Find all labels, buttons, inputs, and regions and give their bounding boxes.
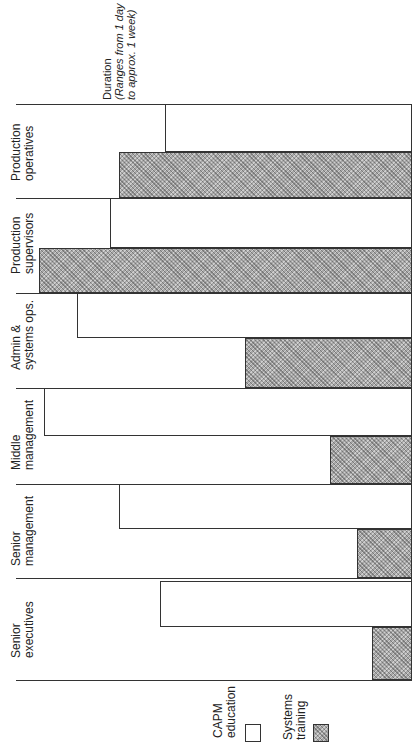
bar-capm-admin-systems-ops [77, 293, 411, 338]
bar-systems-production-supervisors [39, 248, 411, 293]
legend-swatch-capm-education [245, 724, 261, 742]
group-label-production-operatives: Productionoperatives [10, 124, 36, 181]
group-label-senior-management: Seniormanagement [10, 496, 36, 566]
bar-systems-middle-management [330, 436, 411, 484]
duration-range-line1: (Ranges from 1 day [113, 3, 125, 100]
group-label-production-supervisors: Productionsupervisors [10, 213, 36, 274]
bar-systems-production-operatives [119, 152, 411, 198]
bar-systems-admin-systems-ops [245, 338, 411, 388]
group-label-admin-systems-ops: Admin &systems ops. [10, 300, 36, 370]
legend-label-capm-education: CAPMeducation [212, 686, 238, 738]
bar-systems-senior-management [357, 529, 411, 578]
value-axis-baseline [411, 104, 412, 681]
duration-axis-label: Duration (Ranges from 1 day to approx. 1… [101, 3, 137, 100]
bar-capm-production-supervisors [110, 198, 411, 248]
legend-swatch-systems-training [313, 724, 329, 742]
group-separator [16, 680, 412, 681]
bar-capm-senior-management [119, 484, 411, 529]
bar-capm-middle-management [44, 388, 411, 436]
bar-capm-senior-executives [160, 581, 411, 627]
group-label-senior-executives: Seniorexecutives [10, 601, 36, 658]
bar-systems-senior-executives [372, 627, 411, 680]
group-label-middle-management: Middlemanagement [10, 400, 36, 470]
legend-label-systems-training: Systemstraining [282, 694, 308, 740]
bar-capm-production-operatives [165, 104, 411, 152]
group-separator [16, 578, 412, 579]
duration-title: Duration [101, 58, 113, 100]
duration-range-line2: to approx. 1 week) [125, 3, 137, 100]
duration-bar-chart: Duration (Ranges from 1 day to approx. 1… [0, 0, 416, 749]
